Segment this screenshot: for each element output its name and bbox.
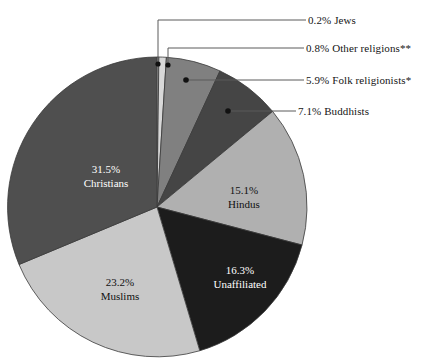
leader-dot-folk-religionists [183,77,189,83]
callout-label-folk-religionists: 5.9% Folk religionists* [306,74,411,86]
pie-chart-figure: 31.5% Christians 23.2% Muslims 16.3% Una… [0,0,428,364]
leader-dot-jews [155,61,160,66]
slice-label-hindus-name: Hindus [228,198,260,210]
pie-slices [8,57,307,357]
callout-label-other-religions: 0.8% Other religions** [306,42,411,54]
callout-label-jews: 0.2% Jews [308,14,356,26]
slice-label-hindus-pct: 15.1% [230,184,258,196]
slice-label-unaffiliated-pct: 16.3% [226,264,254,276]
slice-label-muslims-pct: 23.2% [106,276,134,288]
pie-chart-svg: 31.5% Christians 23.2% Muslims 16.3% Una… [0,0,428,364]
leader-dot-other-religions [165,62,170,67]
slice-label-unaffiliated-name: Unaffiliated [214,278,267,290]
slice-label-muslims-name: Muslims [101,290,140,302]
leader-line-jews [158,20,306,64]
slice-label-christians-pct: 31.5% [92,163,120,175]
slice-label-christians-name: Christians [84,177,129,189]
callout-label-buddhists: 7.1% Buddhists [298,105,369,117]
leader-dot-buddhists [225,108,231,114]
